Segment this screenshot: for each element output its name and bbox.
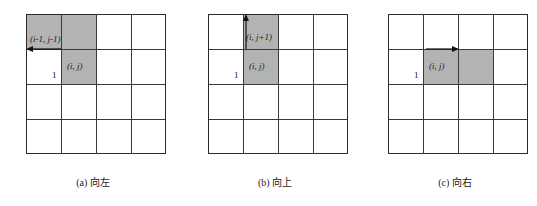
panel-caption-b: (b) 向上 xyxy=(190,178,360,188)
annotations-a: (i-1, j-1) (i, j) 1 xyxy=(26,14,166,154)
left-arrow-a xyxy=(26,14,166,154)
annotations-c: (i, j) 1 xyxy=(388,14,528,154)
up-arrow-b xyxy=(208,14,348,154)
grid-b: (i, j+1) (i, j) 1 xyxy=(208,14,348,154)
panel-b: (i, j+1) (i, j) 1 (b) 向上 xyxy=(190,0,360,206)
panel-a: (i-1, j-1) (i, j) 1 (a) 向左 xyxy=(8,0,178,206)
figure-container: (i-1, j-1) (i, j) 1 (a) 向左 xyxy=(0,0,537,206)
grid-c: (i, j) 1 xyxy=(388,14,528,154)
panel-caption-c: (c) 向右 xyxy=(370,178,537,188)
panel-c: (i, j) 1 (c) 向右 xyxy=(370,0,537,206)
grid-a: (i-1, j-1) (i, j) 1 xyxy=(26,14,166,154)
annotations-b: (i, j+1) (i, j) 1 xyxy=(208,14,348,154)
panel-caption-a: (a) 向左 xyxy=(8,178,178,188)
right-arrow-c xyxy=(388,14,528,154)
